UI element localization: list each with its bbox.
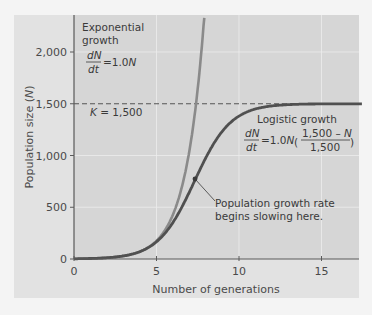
logistic-title: Logistic growth — [257, 113, 337, 125]
svg-text:dt: dt — [246, 141, 258, 153]
svg-text:1,500 – N: 1,500 – N — [302, 127, 352, 139]
svg-text:dN: dN — [245, 127, 260, 139]
x-tick-label: 10 — [232, 265, 246, 278]
y-tick-label: 1,500 — [36, 98, 68, 111]
y-axis-label: Population size (N) — [23, 86, 36, 189]
y-tick-label: 1,000 — [36, 150, 68, 163]
svg-text:=1.0N: =1.0N — [103, 56, 137, 68]
exp-title-line2: growth — [82, 34, 119, 46]
svg-text:begins slowing here.: begins slowing here. — [215, 210, 323, 222]
svg-text:Population growth rate: Population growth rate — [215, 197, 335, 209]
k-label: K = 1,500 — [90, 106, 142, 118]
svg-text:1,500: 1,500 — [310, 141, 340, 153]
x-axis-label: Number of generations — [152, 283, 280, 296]
svg-text:(: ( — [294, 136, 298, 148]
y-tick-label: 0 — [60, 253, 67, 266]
y-tick-label: 500 — [46, 201, 67, 214]
x-tick-label: 15 — [315, 265, 329, 278]
x-tick-label: 0 — [71, 265, 78, 278]
x-tick-label: 5 — [153, 265, 160, 278]
logistic-growth-chart: 05101505001,0001,5002,000 Number of gene… — [0, 0, 372, 315]
svg-text:dt: dt — [88, 63, 100, 75]
svg-text:dN: dN — [87, 49, 102, 61]
svg-text:=1.0N: =1.0N — [261, 134, 295, 146]
svg-text:): ) — [350, 136, 354, 148]
exp-title-line1: Exponential — [82, 21, 144, 33]
y-tick-label: 2,000 — [36, 46, 68, 59]
